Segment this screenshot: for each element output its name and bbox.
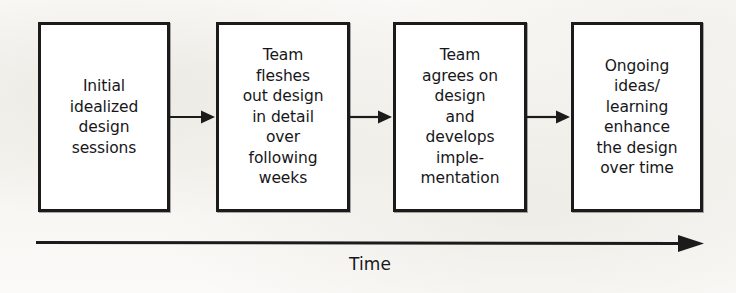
connector-arrow-1-2: [170, 105, 216, 129]
process-flow-diagram: Initial idealized design sessions Team f…: [0, 0, 736, 293]
stage-box-4[interactable]: Ongoing ideas/ learning enhance the desi…: [571, 22, 703, 212]
connector-arrow-2-3: [350, 105, 393, 129]
stage-box-2[interactable]: Team fleshes out design in detail over f…: [216, 22, 350, 212]
timeline-axis-label-wrapper: Time: [0, 253, 736, 275]
stage-box-3[interactable]: Team agrees on design and develops imple…: [393, 22, 527, 212]
stage-box-1-label: Initial idealized design sessions: [66, 76, 142, 158]
stage-box-2-label: Team fleshes out design in detail over f…: [239, 45, 328, 189]
stage-box-4-label: Ongoing ideas/ learning enhance the desi…: [593, 56, 682, 179]
timeline-axis-label: Time: [349, 254, 391, 274]
connector-arrow-3-4: [527, 105, 571, 129]
stage-box-3-label: Team agrees on design and develops imple…: [417, 45, 504, 189]
stage-box-1[interactable]: Initial idealized design sessions: [38, 22, 170, 212]
